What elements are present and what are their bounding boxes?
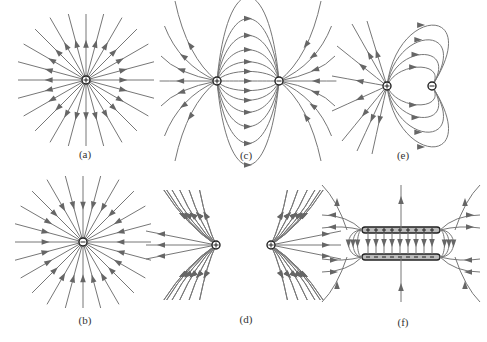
- arrowhead-icon: [368, 52, 374, 60]
- arrowhead-icon: [114, 218, 122, 224]
- arrowhead-icon: [244, 47, 252, 53]
- panel-e: [332, 21, 449, 154]
- arrowhead-icon: [119, 86, 127, 91]
- arrowhead-icon: [244, 109, 252, 115]
- arrowhead-icon: [101, 203, 107, 211]
- arrowhead-icon: [244, 124, 252, 130]
- panel-a: [18, 14, 154, 146]
- arrowhead-icon: [381, 239, 387, 247]
- arrowhead-icon: [80, 202, 86, 210]
- arrowhead-icon: [188, 112, 195, 120]
- arrowhead-icon: [45, 77, 53, 83]
- arrowhead-icon: [244, 141, 252, 147]
- arrowhead-icon: [91, 274, 96, 282]
- arrowhead-icon: [398, 196, 404, 204]
- arrowhead-icon: [117, 228, 125, 233]
- arrowhead-icon: [409, 102, 417, 108]
- arrowhead-icon: [75, 40, 80, 48]
- arrowhead-icon: [101, 42, 107, 50]
- arrowhead-icon: [83, 112, 89, 120]
- arrowhead-icon: [157, 231, 165, 237]
- arrowhead-icon: [446, 240, 452, 248]
- arrowhead-icon: [117, 250, 125, 255]
- arrowhead-icon: [244, 59, 252, 65]
- arrowhead-icon: [91, 201, 96, 209]
- arrowhead-icon: [244, 97, 252, 103]
- arrowhead-icon: [389, 239, 395, 247]
- arrowhead-icon: [244, 69, 252, 75]
- arrowhead-icon: [48, 58, 56, 64]
- arrowhead-icon: [359, 64, 367, 71]
- arrowhead-icon: [196, 270, 204, 278]
- arrowhead-icon: [45, 68, 53, 73]
- arrowhead-icon: [328, 212, 336, 218]
- field-diagrams-svg: [0, 0, 487, 342]
- arrowhead-icon: [373, 239, 379, 247]
- arrowhead-icon: [244, 16, 252, 22]
- arrowhead-icon: [92, 40, 97, 48]
- arrowhead-icon: [188, 42, 195, 50]
- arrowhead-icon: [92, 112, 97, 120]
- arrowhead-icon: [157, 253, 165, 259]
- arrowhead-icon: [466, 224, 474, 230]
- arrowhead-icon: [283, 212, 291, 220]
- arrowhead-icon: [115, 58, 123, 64]
- arrowhead-icon: [304, 40, 311, 48]
- arrowhead-icon: [451, 240, 457, 248]
- arrowhead-icon: [355, 240, 361, 248]
- arrowhead-icon: [59, 273, 65, 281]
- arrowhead-icon: [464, 257, 472, 263]
- arrowhead-icon: [119, 68, 127, 73]
- arrowhead-icon: [45, 86, 53, 91]
- arrowhead-icon: [312, 78, 320, 84]
- arrowhead-icon: [83, 40, 89, 48]
- arrowhead-icon: [277, 270, 283, 278]
- arrowhead-icon: [356, 94, 364, 100]
- arrowhead-icon: [42, 239, 50, 245]
- arrowhead-icon: [177, 68, 185, 73]
- arrowhead-icon: [350, 240, 356, 248]
- arrowhead-icon: [277, 212, 283, 220]
- arrowhead-icon: [196, 212, 204, 220]
- arrowhead-icon: [244, 33, 252, 39]
- arrowhead-icon: [203, 212, 209, 220]
- arrowhead-icon: [311, 91, 319, 96]
- arrowhead-icon: [180, 101, 188, 108]
- arrowhead-icon: [283, 270, 291, 278]
- arrowhead-icon: [44, 260, 52, 266]
- arrowhead-icon: [311, 66, 319, 71]
- arrowhead-icon: [413, 239, 419, 247]
- arrowhead-icon: [346, 240, 352, 248]
- panel-label-b: (b): [65, 314, 105, 326]
- arrowhead-icon: [115, 95, 123, 101]
- arrowhead-icon: [75, 112, 80, 120]
- panel-label-f: (f): [383, 316, 423, 328]
- arrowhead-icon: [442, 240, 448, 248]
- arrowhead-icon: [101, 109, 107, 117]
- arrowhead-icon: [328, 224, 336, 230]
- arrowhead-icon: [370, 114, 376, 122]
- arrowhead-icon: [356, 79, 364, 85]
- arrowhead-icon: [70, 201, 75, 209]
- arrowhead-icon: [304, 114, 311, 122]
- panel-label-c: (c): [226, 149, 266, 161]
- panel-f: [322, 185, 480, 302]
- panel-b: [15, 176, 151, 308]
- arrowhead-icon: [203, 270, 209, 278]
- arrowhead-icon: [157, 242, 165, 248]
- arrowhead-icon: [244, 162, 252, 168]
- arrowhead-icon: [70, 274, 75, 282]
- arrowhead-icon: [466, 212, 474, 218]
- arrowhead-icon: [412, 115, 420, 121]
- panel-d: [146, 190, 341, 300]
- arrowhead-icon: [405, 239, 411, 247]
- panel-c: [160, 0, 337, 168]
- arrowhead-icon: [365, 239, 371, 247]
- arrowhead-icon: [412, 52, 420, 58]
- arrowhead-icon: [101, 273, 107, 281]
- arrowhead-icon: [322, 253, 330, 259]
- arrowhead-icon: [116, 239, 124, 245]
- panel-label-e: (e): [383, 149, 423, 161]
- arrowhead-icon: [409, 64, 417, 70]
- arrowhead-icon: [177, 88, 185, 93]
